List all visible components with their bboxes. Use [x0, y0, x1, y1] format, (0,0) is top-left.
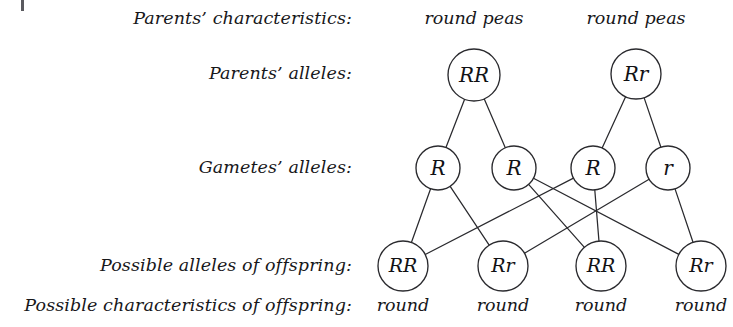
gamete-node-gamete-4: r — [646, 146, 690, 190]
offspring-3-phenotype: round — [575, 295, 628, 315]
offspring-phenotype-labels: roundroundroundround — [377, 295, 728, 315]
offspring-4-label: Rr — [688, 254, 714, 276]
corner-artifact — [21, 0, 24, 11]
offspring-node-offspring-3: RR — [576, 241, 626, 291]
offspring-2-label: Rr — [490, 254, 516, 276]
link-gamete4-offspring4 — [675, 189, 693, 242]
gamete-1-label: R — [429, 156, 445, 180]
offspring-node-offspring-2: Rr — [478, 241, 528, 291]
row-label-parents-alleles: Parents’ alleles: — [208, 63, 352, 83]
gamete-node-gamete-3: R — [571, 146, 615, 190]
offspring-node-offspring-1: RR — [378, 241, 428, 291]
genetics-cross-diagram: Parents’ characteristics:Parents’ allele… — [0, 0, 733, 327]
row-label-column: Parents’ characteristics:Parents’ allele… — [23, 8, 352, 315]
offspring-1-label: RR — [388, 254, 418, 276]
parent-node-parent-2: Rr — [611, 49, 661, 99]
link-gamete3-offspring3 — [595, 190, 599, 241]
link-parent2-gamete3 — [602, 97, 625, 148]
offspring-allele-nodes: RRRrRRRr — [378, 241, 726, 291]
link-parent1-gamete2 — [484, 99, 505, 148]
link-parent2-gamete4 — [644, 98, 661, 148]
gamete-2-label: R — [505, 156, 521, 180]
parent-node-parent-1: RR — [448, 49, 500, 101]
row-label-gametes-alleles: Gametes’ alleles: — [199, 157, 352, 177]
parent-1-label: RR — [458, 63, 489, 87]
link-gamete2-offspring3 — [529, 184, 585, 247]
parent-2-phenotype: round peas — [586, 8, 685, 28]
row-label-possible-alleles-offspring: Possible alleles of offspring: — [99, 255, 352, 275]
offspring-4-phenotype: round — [675, 295, 728, 315]
link-gamete1-offspring1 — [411, 189, 430, 243]
punnett-cross-canvas: Parents’ characteristics:Parents’ allele… — [0, 0, 733, 327]
offspring-2-phenotype: round — [477, 295, 530, 315]
gamete-node-gamete-1: R — [416, 146, 460, 190]
parent-to-gamete-links — [446, 97, 661, 148]
corner-artifact-mark — [21, 0, 24, 11]
gamete-3-label: R — [584, 156, 600, 180]
link-parent1-gamete1 — [446, 99, 465, 147]
link-gamete1-offspring2 — [450, 186, 489, 245]
gamete-node-gamete-2: R — [492, 146, 536, 190]
row-label-parents-characteristics: Parents’ characteristics: — [132, 8, 352, 28]
gamete-to-offspring-links — [411, 178, 693, 254]
gamete-allele-nodes: RRRr — [416, 146, 690, 190]
offspring-1-phenotype: round — [377, 295, 430, 315]
offspring-node-offspring-4: Rr — [676, 241, 726, 291]
link-gamete4-offspring2 — [524, 179, 649, 253]
parent-allele-nodes: RRRr — [448, 49, 661, 101]
parent-1-phenotype: round peas — [424, 8, 523, 28]
offspring-3-label: RR — [586, 254, 616, 276]
gamete-4-label: r — [663, 156, 674, 180]
row-label-possible-characteristics-offspring: Possible characteristics of offspring: — [23, 295, 352, 315]
parent-2-label: Rr — [623, 62, 650, 86]
parent-phenotype-labels: round peasround peas — [424, 8, 685, 28]
